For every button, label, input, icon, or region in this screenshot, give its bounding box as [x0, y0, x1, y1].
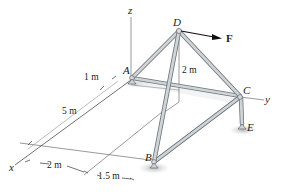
axis-label-z: z — [127, 4, 133, 16]
joint-label-e: E — [246, 121, 254, 133]
dimension-1-5m: 1.5 m — [98, 171, 120, 181]
x-axis — [15, 80, 131, 165]
joint-label-d: D — [172, 16, 181, 28]
dimension-markers — [25, 76, 134, 180]
joint-label-a: A — [122, 64, 130, 76]
joint-label-c: C — [243, 84, 251, 96]
truss-diagram: z y x D A C B E F 1 m 5 m 2 m 2 m 1.5 m — [0, 0, 283, 196]
dimension-height-2m: 2 m — [182, 65, 197, 75]
dimension-1m: 1 m — [84, 72, 99, 82]
joint-d-pin — [176, 28, 181, 33]
axis-label-x: x — [8, 161, 14, 173]
y-axis — [240, 97, 264, 100]
joint-c-pin — [238, 95, 243, 100]
force-label: F — [226, 32, 233, 44]
dimension-2m: 2 m — [47, 160, 62, 170]
joint-label-b: B — [145, 151, 152, 163]
arrowhead-icon — [212, 34, 222, 40]
axis-label-y: y — [264, 93, 270, 105]
dimension-5m: 5 m — [62, 106, 77, 116]
